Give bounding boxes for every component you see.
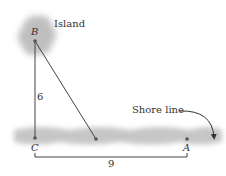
point-b-dot xyxy=(33,39,37,43)
side-bc-length: 6 xyxy=(37,92,43,102)
island-shore-diagram: Island B 6 C A 9 Shore line xyxy=(0,0,226,176)
island-label: Island xyxy=(54,19,85,29)
point-b-label: B xyxy=(31,27,38,37)
point-c-dot xyxy=(33,136,37,140)
segment-b-to-shore xyxy=(35,41,96,139)
shore-point-dot xyxy=(94,137,98,141)
side-ca-length: 9 xyxy=(108,159,114,169)
shore-band xyxy=(14,127,222,145)
distance-bracket-ca xyxy=(35,153,187,157)
point-a-label: A xyxy=(183,143,190,153)
point-a-dot xyxy=(185,137,189,141)
point-c-label: C xyxy=(31,143,39,153)
shore-line-label: Shore line xyxy=(132,105,184,115)
